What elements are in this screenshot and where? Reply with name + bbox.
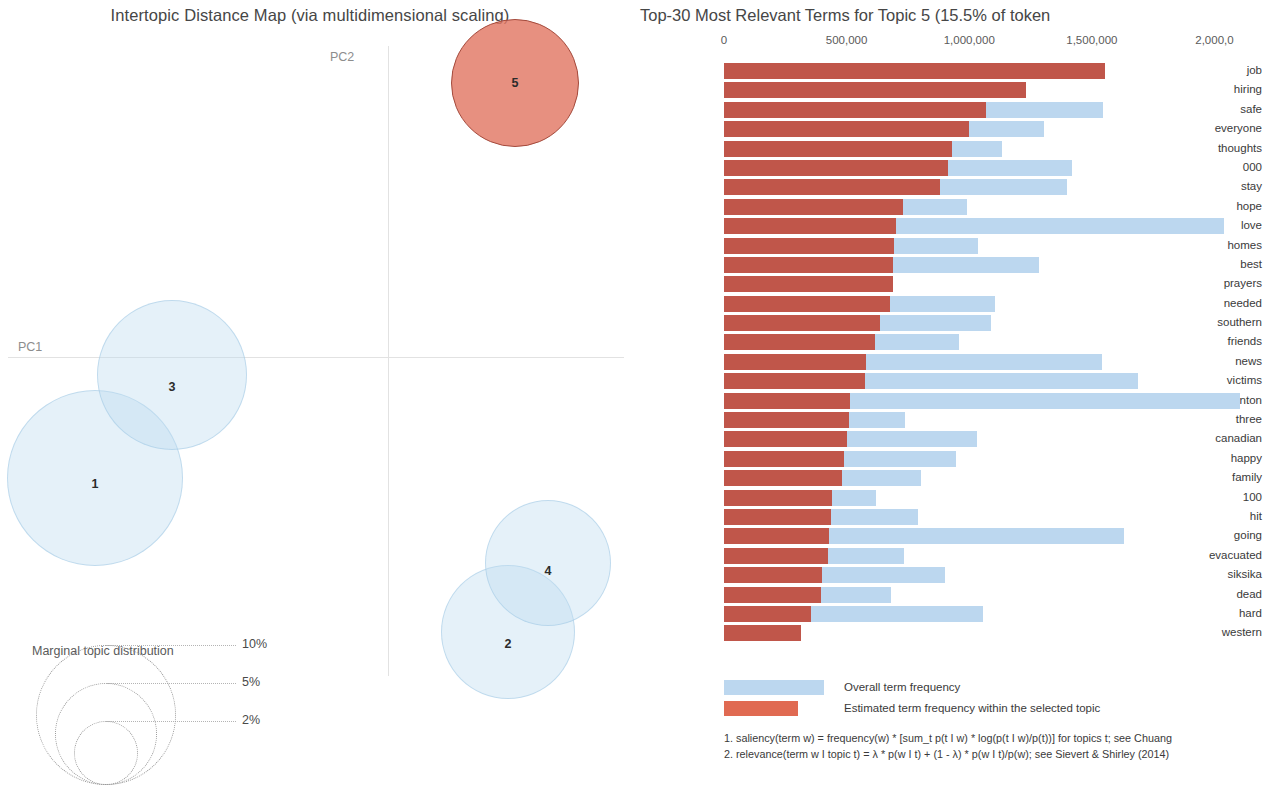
bar-estimated-frequency — [724, 393, 850, 409]
bar-row[interactable]: thoughts — [640, 140, 1265, 159]
bar-estimated-frequency — [724, 490, 832, 506]
bar-estimated-frequency — [724, 315, 880, 331]
bar-estimated-frequency — [724, 199, 903, 215]
bar-estimated-frequency — [724, 567, 822, 583]
bar-estimated-frequency — [724, 509, 831, 525]
marginal-pct-label-10: 10% — [242, 637, 267, 651]
bar-row[interactable]: needed — [640, 295, 1265, 314]
bar-row[interactable]: love — [640, 217, 1265, 236]
bar-row[interactable]: edmonton — [640, 392, 1265, 411]
term-barchart-panel: Top-30 Most Relevant Terms for Topic 5 (… — [640, 0, 1265, 789]
bar-row[interactable]: friends — [640, 333, 1265, 352]
barchart-x-axis: 0500,0001,000,0001,500,0002,000,0 — [640, 34, 1265, 54]
bar-row[interactable]: dead — [640, 586, 1265, 605]
bar-track — [724, 102, 1239, 118]
pc1-axis-label: PC1 — [18, 340, 42, 354]
bar-row[interactable]: stay — [640, 178, 1265, 197]
bar-track — [724, 199, 1239, 215]
bar-track — [724, 276, 1239, 292]
bar-row[interactable]: safe — [640, 101, 1265, 120]
bar-track — [724, 354, 1239, 370]
bar-row[interactable]: prayers — [640, 275, 1265, 294]
legend-swatch-estimated — [724, 701, 798, 716]
bar-row[interactable]: canadian — [640, 430, 1265, 449]
bar-track — [724, 121, 1239, 137]
footnote-relevance: 2. relevance(term w I topic t) = λ * p(w… — [724, 746, 1265, 762]
bar-estimated-frequency — [724, 257, 893, 273]
x-axis-tick-2: 1,000,000 — [944, 34, 995, 46]
bar-track — [724, 625, 1239, 641]
legend-row-estimated: Estimated term frequency within the sele… — [724, 699, 1264, 720]
topic-bubble-label-2: 2 — [505, 637, 512, 651]
bar-row[interactable]: news — [640, 353, 1265, 372]
bar-estimated-frequency — [724, 606, 811, 622]
topic-bubble-3[interactable] — [97, 300, 247, 450]
x-axis-tick-1: 500,000 — [826, 34, 868, 46]
marginal-leader-10 — [106, 645, 236, 646]
intertopic-distance-map-panel: Intertopic Distance Map (via multidimens… — [0, 0, 640, 789]
bar-row[interactable]: evacuated — [640, 547, 1265, 566]
bar-estimated-frequency — [724, 102, 986, 118]
bar-row[interactable]: siksika — [640, 566, 1265, 585]
bar-row[interactable]: southern — [640, 314, 1265, 333]
bar-track — [724, 218, 1239, 234]
bar-row[interactable]: best — [640, 256, 1265, 275]
bar-estimated-frequency — [724, 82, 1026, 98]
bar-row[interactable]: family — [640, 469, 1265, 488]
bar-track — [724, 587, 1239, 603]
bar-track — [724, 179, 1239, 195]
bar-estimated-frequency — [724, 334, 875, 350]
bar-track — [724, 63, 1239, 79]
barchart-footnotes: 1. saliency(term w) = frequency(w) * [su… — [724, 730, 1265, 762]
bar-row[interactable]: victims — [640, 372, 1265, 391]
bar-estimated-frequency — [724, 548, 828, 564]
bar-row[interactable]: 000 — [640, 159, 1265, 178]
topic-bubble-4[interactable] — [485, 500, 611, 626]
bar-row[interactable]: homes — [640, 237, 1265, 256]
bar-estimated-frequency — [724, 160, 948, 176]
barchart-title: Top-30 Most Relevant Terms for Topic 5 (… — [640, 6, 1265, 25]
bar-track — [724, 412, 1239, 428]
bar-row[interactable]: three — [640, 411, 1265, 430]
bar-row[interactable]: 100 — [640, 489, 1265, 508]
bar-estimated-frequency — [724, 373, 865, 389]
topic-bubble-label-1: 1 — [92, 477, 99, 491]
pc2-axis-line — [388, 46, 389, 676]
marginal-topic-distribution-legend: Marginal topic distribution 2%5%10% — [28, 640, 328, 789]
bar-estimated-frequency — [724, 587, 821, 603]
footnote-saliency: 1. saliency(term w) = frequency(w) * [su… — [724, 730, 1265, 746]
x-axis-tick-4: 2,000,0 — [1195, 34, 1233, 46]
legend-label-estimated: Estimated term frequency within the sele… — [844, 699, 1100, 718]
bar-row[interactable]: hard — [640, 605, 1265, 624]
bar-track — [724, 141, 1239, 157]
bar-row[interactable]: hope — [640, 198, 1265, 217]
bar-row[interactable]: hiring — [640, 81, 1265, 100]
bar-estimated-frequency — [724, 63, 1105, 79]
topic-bubble-label-5: 5 — [512, 76, 519, 90]
marginal-pct-label-5: 5% — [242, 675, 260, 689]
pyldavis-visualization: Intertopic Distance Map (via multidimens… — [0, 0, 1265, 789]
pc2-axis-label: PC2 — [330, 50, 354, 64]
bar-row[interactable]: going — [640, 527, 1265, 546]
legend-swatch-overall — [724, 680, 824, 695]
x-axis-tick-3: 1,500,000 — [1066, 34, 1117, 46]
bar-track — [724, 509, 1239, 525]
bar-track — [724, 82, 1239, 98]
bar-estimated-frequency — [724, 296, 890, 312]
legend-row-overall: Overall term frequency — [724, 678, 1264, 699]
bar-estimated-frequency — [724, 276, 893, 292]
bar-row[interactable]: everyone — [640, 120, 1265, 139]
legend-label-overall: Overall term frequency — [844, 678, 960, 697]
bar-row[interactable]: western — [640, 624, 1265, 643]
bar-track — [724, 373, 1239, 389]
bar-estimated-frequency — [724, 451, 844, 467]
bar-estimated-frequency — [724, 470, 842, 486]
topic-bubble-label-3: 3 — [169, 380, 176, 394]
bar-row[interactable]: hit — [640, 508, 1265, 527]
x-axis-tick-0: 0 — [721, 34, 727, 46]
bar-track — [724, 296, 1239, 312]
bar-estimated-frequency — [724, 528, 829, 544]
bar-track — [724, 451, 1239, 467]
bar-row[interactable]: job — [640, 62, 1265, 81]
bar-row[interactable]: happy — [640, 450, 1265, 469]
